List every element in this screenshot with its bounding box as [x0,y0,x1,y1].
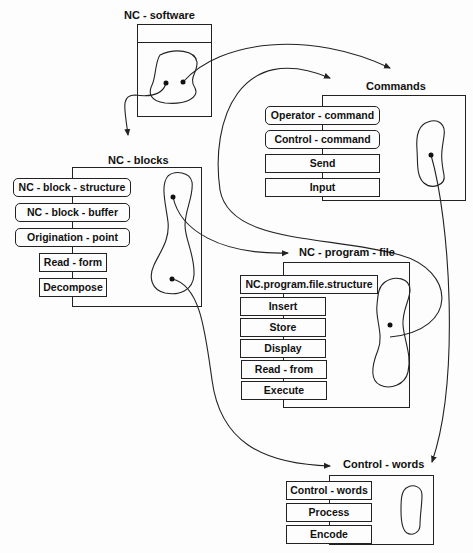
class-title: NC - blocks [108,154,169,166]
operation-read-from[interactable]: Read - from [241,360,327,379]
class-divider [137,42,212,43]
operation-input[interactable]: Input [265,178,380,197]
operation-execute[interactable]: Execute [241,381,327,400]
operation-nc-block-buffer[interactable]: NC - block - buffer [15,203,130,222]
operation-decompose[interactable]: Decompose [39,278,107,297]
operation-send[interactable]: Send [265,154,380,173]
wire-software-to-commands [183,44,390,82]
operation-store[interactable]: Store [240,318,326,337]
operation-operator-command[interactable]: Operator - command [265,106,380,125]
operation-insert[interactable]: Insert [240,297,326,316]
operation-encode[interactable]: Encode [286,525,372,544]
class-frame [137,24,212,117]
class-title: Commands [366,80,426,92]
operation-display[interactable]: Display [240,339,326,358]
class-title: NC - program - file [299,246,395,258]
class-title: NC - software [124,9,195,21]
operation-nc-block-structure[interactable]: NC - block - structure [13,178,131,197]
operation-origination-point[interactable]: Origination - point [15,228,130,247]
operation-read-form[interactable]: Read - form [39,253,107,272]
operation-process[interactable]: Process [286,503,372,522]
class-title: Control - words [343,458,424,470]
operation-nc-program-file-structure[interactable]: NC.program.file.structure [240,275,378,294]
operation-control-words[interactable]: Control - words [286,481,372,500]
operation-control-command[interactable]: Control - command [265,130,380,149]
